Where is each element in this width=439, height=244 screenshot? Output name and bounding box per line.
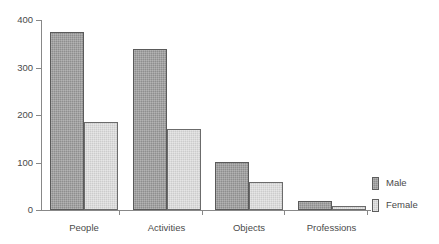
x-axis-category-label: Activities	[148, 223, 185, 233]
bar-people-female	[84, 122, 118, 210]
bar-professions-female	[332, 206, 366, 210]
y-axis-tick-label: 0	[28, 205, 33, 215]
x-axis-category-label: People	[69, 223, 99, 233]
bar-activities-male	[133, 49, 167, 210]
bar-professions-male	[298, 201, 332, 210]
legend-swatch-male-icon	[372, 177, 379, 190]
x-axis-tick	[284, 210, 285, 215]
bar-objects-male	[215, 162, 249, 210]
bar-objects-female	[249, 182, 283, 211]
y-axis-tick-label: 300	[17, 63, 33, 73]
legend-swatch-female-icon	[372, 199, 379, 212]
y-axis-tick-label: 100	[17, 158, 33, 168]
legend-label: Male	[386, 178, 407, 188]
bar-people-male	[50, 32, 84, 210]
bars-layer	[41, 12, 371, 211]
x-axis-tick	[119, 210, 120, 215]
legend-item-male[interactable]: Male	[372, 172, 438, 194]
x-axis-category-label: Professions	[307, 223, 357, 233]
legend-item-female[interactable]: Female	[372, 194, 438, 216]
plot-area: 0100200300400 PeopleActivitiesObjectsPro…	[41, 12, 371, 218]
x-axis-tick	[202, 210, 203, 215]
legend-label: Female	[386, 200, 418, 210]
legend: MaleFemale	[372, 172, 438, 216]
y-axis-tick-label: 400	[17, 15, 33, 25]
bar-activities-female	[167, 129, 201, 210]
x-axis-tick	[367, 210, 368, 215]
bar-chart: 0100200300400 PeopleActivitiesObjectsPro…	[0, 0, 439, 244]
y-axis-tick-label: 200	[17, 110, 33, 120]
x-axis-category-label: Objects	[233, 223, 265, 233]
